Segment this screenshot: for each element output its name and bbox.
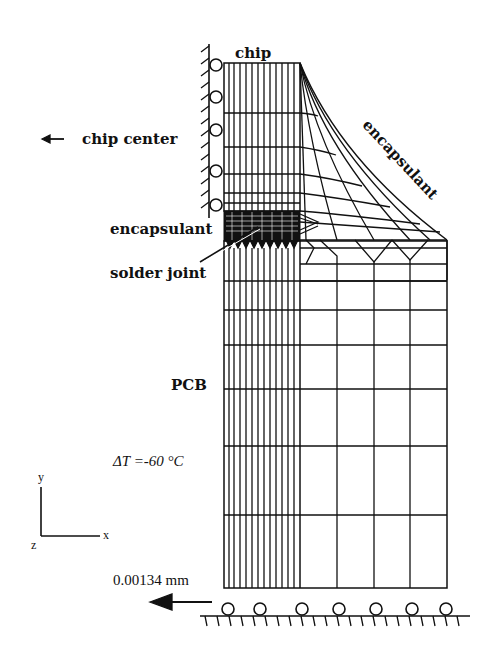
chip-center-arrow-icon [42, 135, 64, 143]
solder-joint-mesh [224, 211, 318, 248]
axis-x-label: x [103, 528, 109, 543]
fea-mesh-diagram [0, 0, 489, 657]
axis-z-label: z [31, 538, 36, 553]
encapsulant-label: encapsulant [110, 220, 212, 238]
left-roller-supports [210, 59, 222, 211]
pcb-label: PCB [171, 376, 207, 394]
displacement-label: 0.00134 mm [113, 572, 189, 589]
encapsulant-lower-mesh [300, 240, 447, 281]
chip-label: chip [235, 44, 271, 62]
delta-t-label: ΔT =-60 °C [113, 453, 184, 470]
axis-y-label: y [38, 470, 44, 485]
pcb-mesh [224, 241, 447, 588]
encapsulant-fillet-mesh [300, 63, 447, 240]
ground-hatch [200, 616, 470, 626]
left-wall-hatch [201, 44, 209, 218]
coordinate-axes-icon [41, 487, 100, 536]
bottom-roller-supports [222, 603, 452, 615]
solder-joint-label: solder joint [110, 264, 206, 282]
chip-center-label: chip center [82, 130, 177, 148]
displacement-arrow-icon [150, 594, 212, 610]
chip-mesh [224, 63, 300, 211]
